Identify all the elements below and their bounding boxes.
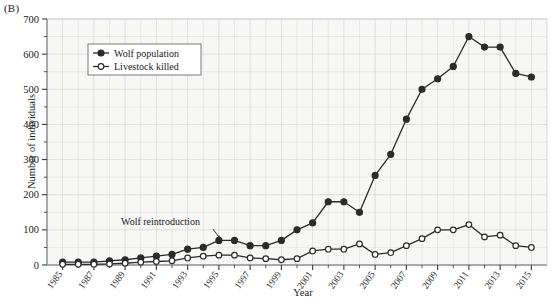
data-point-wolf-population	[341, 199, 347, 205]
data-point-wolf-population	[419, 86, 425, 92]
data-point-wolf-population	[278, 237, 284, 243]
data-point-livestock-killed	[200, 253, 206, 259]
data-point-livestock-killed	[513, 243, 519, 249]
data-point-livestock-killed	[419, 236, 425, 242]
y-tick-label: 100	[23, 224, 39, 235]
data-point-wolf-population	[513, 70, 519, 76]
data-point-livestock-killed	[341, 246, 347, 252]
data-point-wolf-population	[388, 151, 394, 157]
data-point-livestock-killed	[357, 241, 363, 247]
data-point-livestock-killed	[263, 256, 269, 262]
data-point-livestock-killed	[435, 227, 441, 233]
data-point-wolf-population	[450, 63, 456, 69]
data-point-livestock-killed	[169, 258, 175, 264]
data-point-wolf-population	[185, 246, 191, 252]
data-point-livestock-killed	[138, 259, 144, 265]
data-point-wolf-population	[310, 220, 316, 226]
data-point-livestock-killed	[325, 246, 331, 252]
y-axis-label: Number of individuals	[26, 62, 37, 222]
data-point-livestock-killed	[247, 255, 253, 261]
data-point-livestock-killed	[91, 262, 97, 268]
data-point-livestock-killed	[279, 257, 285, 263]
data-point-livestock-killed	[60, 262, 66, 268]
data-point-livestock-killed	[372, 252, 378, 258]
x-axis-label: Year	[0, 287, 558, 298]
data-point-wolf-population	[435, 76, 441, 82]
y-tick-label: 700	[23, 14, 39, 25]
data-point-wolf-population	[482, 44, 488, 50]
data-point-livestock-killed	[482, 234, 488, 240]
y-tick-label: 0	[34, 260, 39, 271]
data-point-wolf-population	[232, 237, 238, 243]
data-point-wolf-population	[294, 227, 300, 233]
legend-label: Livestock killed	[114, 61, 179, 72]
data-point-wolf-population	[466, 34, 472, 40]
data-point-livestock-killed	[450, 227, 456, 233]
data-point-wolf-population	[247, 243, 253, 249]
legend-label: Wolf population	[114, 48, 179, 59]
data-point-wolf-population	[263, 243, 269, 249]
data-point-livestock-killed	[404, 243, 410, 249]
data-point-wolf-population	[325, 199, 331, 205]
data-point-wolf-population	[169, 251, 175, 257]
figure-panel-b: (B) Number of individuals Year 010020030…	[0, 0, 558, 304]
data-point-livestock-killed	[75, 262, 81, 268]
data-point-livestock-killed	[466, 222, 472, 228]
legend: Wolf populationLivestock killed	[88, 44, 201, 75]
legend-marker-filled-circle-icon	[98, 50, 104, 56]
data-point-wolf-population	[497, 44, 503, 50]
legend-marker-open-circle-icon	[98, 64, 104, 70]
data-point-wolf-population	[216, 237, 222, 243]
data-point-wolf-population	[372, 172, 378, 178]
data-point-livestock-killed	[232, 252, 238, 258]
y-tick-label: 600	[23, 49, 39, 60]
data-point-livestock-killed	[122, 260, 128, 266]
data-point-livestock-killed	[310, 248, 316, 254]
data-point-livestock-killed	[529, 245, 535, 251]
data-point-livestock-killed	[294, 256, 300, 262]
annotation-label: Wolf reintroduction	[121, 216, 200, 227]
panel-label: (B)	[4, 2, 19, 14]
data-point-wolf-population	[528, 74, 534, 80]
data-point-livestock-killed	[497, 232, 503, 238]
data-point-livestock-killed	[185, 255, 191, 261]
data-point-livestock-killed	[107, 261, 113, 267]
data-point-livestock-killed	[216, 252, 222, 258]
data-point-livestock-killed	[154, 259, 160, 265]
data-point-wolf-population	[200, 244, 206, 250]
data-point-wolf-population	[403, 116, 409, 122]
line-chart: 0100200300400500600700 19851987198919911…	[0, 0, 558, 304]
data-point-wolf-population	[357, 209, 363, 215]
data-point-livestock-killed	[388, 250, 394, 256]
